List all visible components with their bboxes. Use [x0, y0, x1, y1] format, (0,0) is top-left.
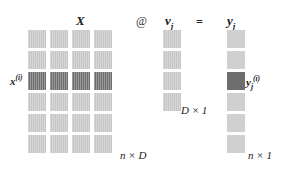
vector-y-header: yj — [227, 14, 235, 31]
matrix-x-cell-r0-c1 — [50, 30, 68, 48]
vector-v-cell-r0-c0 — [163, 30, 181, 48]
vector-v-cell-r1-c0 — [163, 51, 181, 69]
matrix-x-cell-r4-c2 — [72, 114, 90, 132]
matrix-x-cell-r3-c3 — [94, 93, 112, 111]
matrix-x-cell-r1-c1 — [50, 51, 68, 69]
matrix-x-cell-r0-c0 — [28, 30, 46, 48]
row-label-x-i: x(i) — [10, 74, 23, 87]
matrix-x-cell-r2-c0 — [28, 72, 46, 90]
vector-y-cell-r1-c0 — [227, 51, 245, 69]
matrix-x-cell-r0-c3 — [94, 30, 112, 48]
row-label-superscript: (i) — [16, 73, 23, 82]
matrix-x-cell-r1-c3 — [94, 51, 112, 69]
dimension-label-vector-y: n × 1 — [248, 150, 272, 161]
matrix-x-cell-r4-c0 — [28, 114, 46, 132]
matrix-x-cell-r0-c2 — [72, 30, 90, 48]
vector-y-cell-r2-c0 — [227, 72, 245, 90]
matrix-x-cell-r5-c0 — [28, 135, 46, 153]
matrix-x-cell-r5-c2 — [72, 135, 90, 153]
matrix-x-cell-r3-c2 — [72, 93, 90, 111]
matrix-x-cell-r2-c3 — [94, 72, 112, 90]
matrix-x-cell-r4-c3 — [94, 114, 112, 132]
matrix-x-cell-r1-c0 — [28, 51, 46, 69]
matrix-x-cell-r3-c1 — [50, 93, 68, 111]
matrix-x-cell-r1-c2 — [72, 51, 90, 69]
vector-y-cell-r4-c0 — [227, 114, 245, 132]
matrix-x-header: X — [76, 14, 85, 27]
vector-y-cell-r5-c0 — [227, 135, 245, 153]
result-label-subscript: j — [251, 82, 253, 91]
matrix-x-cell-r4-c1 — [50, 114, 68, 132]
matmul-operator-at-icon: @ — [136, 15, 147, 27]
vector-v-cell-r3-c0 — [163, 93, 181, 111]
dimension-label-vector-v: D × 1 — [181, 105, 207, 116]
matrix-x-cell-r5-c3 — [94, 135, 112, 153]
vector-y-cell-r0-c0 — [227, 30, 245, 48]
matrix-x-cell-r2-c1 — [50, 72, 68, 90]
matrix-x-cell-r5-c1 — [50, 135, 68, 153]
vector-v-cell-r2-c0 — [163, 72, 181, 90]
equals-sign: = — [196, 16, 203, 28]
matrix-x-cell-r3-c0 — [28, 93, 46, 111]
result-label-y-j-i: yj(i) — [246, 75, 260, 91]
vector-y-cell-r3-c0 — [227, 93, 245, 111]
matrix-multiplication-diagram: X @ vj = yj x(i) yj(i) n × D D × 1 n × 1 — [0, 0, 286, 173]
result-label-superscript: (i) — [253, 74, 260, 83]
dimension-label-matrix-x: n × D — [120, 150, 146, 161]
matrix-x-cell-r2-c2 — [72, 72, 90, 90]
vector-v-header: vj — [165, 14, 173, 31]
